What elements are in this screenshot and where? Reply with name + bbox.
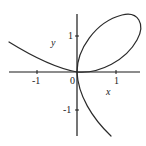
x-tick-label-neg1: -1 xyxy=(32,76,40,86)
curve-lower-branch xyxy=(77,72,111,136)
x-tick-label-pos1: 1 xyxy=(114,76,119,86)
curve-loop xyxy=(77,14,141,72)
y-tick-label-neg1: -1 xyxy=(63,105,71,115)
y-axis-label: y xyxy=(51,38,55,48)
y-tick-label-pos1: 1 xyxy=(68,31,73,41)
origin-tick-label: 0 xyxy=(70,76,75,86)
x-axis-label: x xyxy=(106,87,110,97)
plot-area xyxy=(0,0,146,146)
curve-left-branch xyxy=(9,42,77,72)
